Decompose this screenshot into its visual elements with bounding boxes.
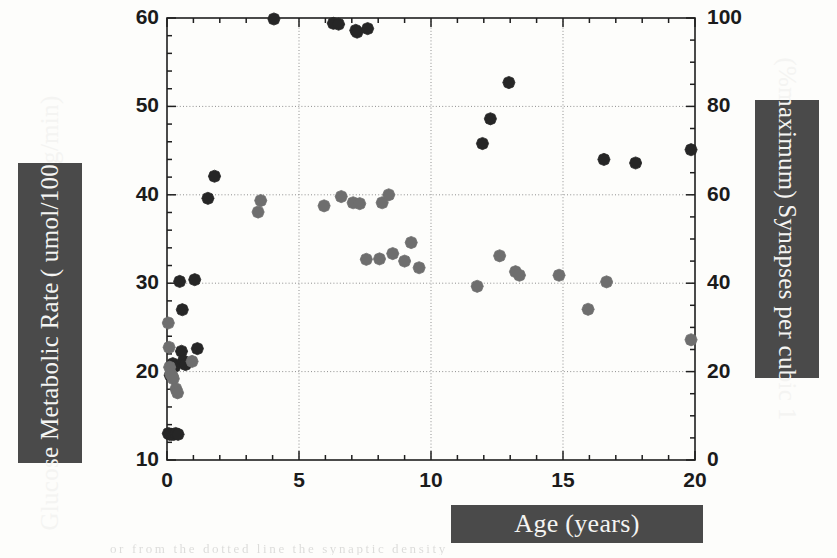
x-axis-tick-15: 15 bbox=[545, 468, 581, 492]
figure-container: Glucose Metabolic Rate ( umol/100g/min) … bbox=[0, 0, 837, 558]
x-axis-tick-20: 20 bbox=[677, 468, 713, 492]
x-axis-tick-5: 5 bbox=[281, 468, 317, 492]
y-axis-left-tick-30: 30 bbox=[123, 270, 159, 294]
y-axis-right-tick-20: 20 bbox=[707, 359, 730, 383]
y-axis-right-tick-40: 40 bbox=[707, 270, 730, 294]
x-axis-tick-0: 0 bbox=[149, 468, 185, 492]
y-axis-right-tick-100: 100 bbox=[707, 5, 742, 29]
y-axis-right-tick-80: 80 bbox=[707, 93, 730, 117]
y-axis-left-tick-20: 20 bbox=[123, 359, 159, 383]
y-axis-left-tick-50: 50 bbox=[123, 93, 159, 117]
series-glucose bbox=[162, 13, 697, 441]
scan-artifact-text: or from the dotted line the synaptic den… bbox=[110, 541, 730, 555]
y-axis-left-tick-60: 60 bbox=[123, 5, 159, 29]
x-axis-tick-10: 10 bbox=[413, 468, 449, 492]
y-axis-left-tick-40: 40 bbox=[123, 182, 159, 206]
y-axis-right-tick-60: 60 bbox=[707, 182, 730, 206]
series-synapses bbox=[162, 189, 697, 399]
